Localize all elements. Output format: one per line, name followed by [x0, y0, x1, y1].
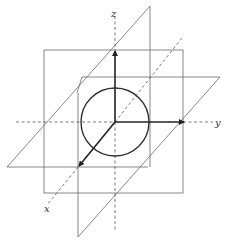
x-axis-label: x — [44, 203, 50, 214]
x-axis-arrow — [79, 122, 115, 166]
coordinate-planes-diagram: z y x — [0, 0, 230, 243]
z-axis-label: z — [110, 8, 117, 19]
slanted-vertical-plane — [7, 6, 220, 237]
y-axis-label: y — [214, 117, 221, 128]
